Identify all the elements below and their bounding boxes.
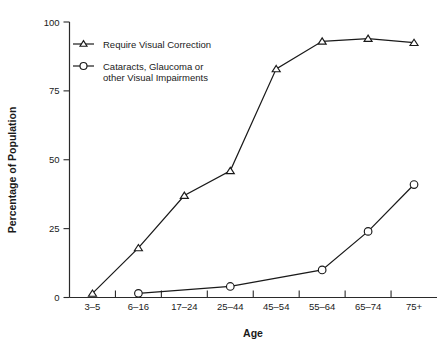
y-axis-title: Percentage of Population	[6, 107, 18, 234]
x-tick-label: 55–64	[309, 301, 335, 312]
circle-marker-icon	[80, 63, 87, 70]
circle-data-point[interactable]	[364, 228, 372, 236]
legend-label-2-line1: Cataracts, Glaucoma or	[103, 61, 203, 72]
y-tick-label: 50	[49, 154, 60, 165]
y-axis-ticks: 0255075100	[44, 17, 70, 304]
y-tick-label: 25	[49, 223, 60, 234]
triangle-data-point[interactable]	[226, 167, 234, 173]
x-tick-label: 75+	[406, 301, 423, 312]
x-tick-label: 3–5	[85, 301, 101, 312]
legend-label-1: Require Visual Correction	[103, 39, 211, 50]
y-tick-label: 100	[44, 17, 60, 28]
x-tick-label: 65–74	[355, 301, 381, 312]
legend-entry-require-visual-correction[interactable]: Require Visual Correction	[73, 39, 211, 50]
chart-container: 0255075100 3–56–1617–2425–4445–5455–6465…	[0, 0, 446, 347]
circle-data-point[interactable]	[226, 283, 234, 291]
x-tick-label: 45–54	[263, 301, 289, 312]
legend-label-2-line2: other Visual Impairments	[103, 72, 208, 83]
triangle-data-point[interactable]	[180, 192, 188, 198]
line-chart: 0255075100 3–56–1617–2425–4445–5455–6465…	[0, 0, 446, 347]
circle-data-point[interactable]	[318, 266, 326, 274]
y-tick-label: 0	[54, 292, 59, 303]
circle-data-point[interactable]	[410, 181, 418, 189]
legend-entry-cataracts-glaucoma[interactable]: Cataracts, Glaucoma or other Visual Impa…	[73, 61, 208, 83]
x-tick-label: 6–16	[128, 301, 149, 312]
x-tick-label: 17–24	[171, 301, 197, 312]
triangle-data-point[interactable]	[272, 65, 280, 71]
y-tick-label: 75	[49, 85, 60, 96]
x-tick-label: 25–44	[217, 301, 243, 312]
circle-data-point[interactable]	[135, 290, 143, 298]
x-axis-title: Age	[243, 327, 263, 339]
series-2	[135, 181, 418, 297]
chart-legend: Require Visual Correction Cataracts, Gla…	[73, 39, 211, 83]
